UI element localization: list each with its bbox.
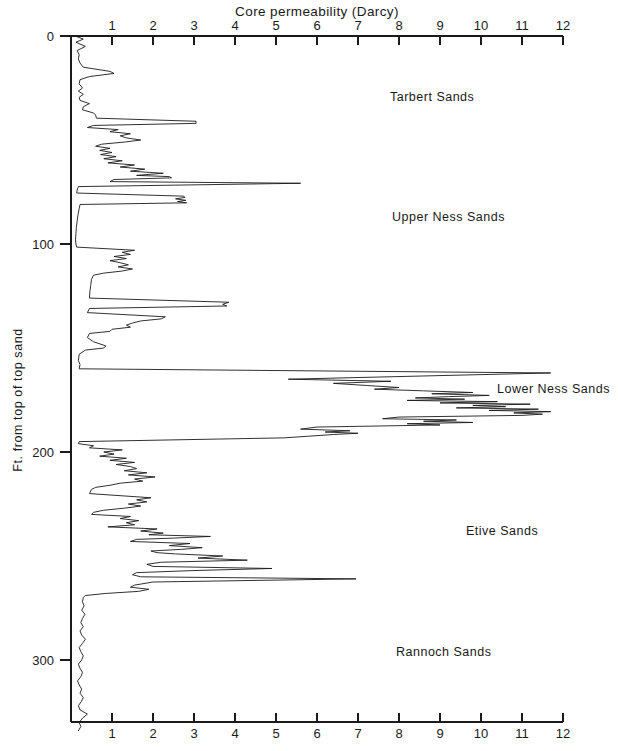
x-tick-bottom-7: 7 [354, 726, 361, 741]
x-tick-top-5: 5 [272, 18, 279, 33]
x-tick-top-12: 12 [556, 18, 570, 33]
y-axis-title: Ft. from top of top sand [11, 328, 25, 472]
formation-label-tarbert: Tarbert Sands [390, 90, 474, 104]
chart-canvas: Core permeability (Darcy) Ft. from top o… [0, 0, 618, 751]
formation-label-etive: Etive Sands [466, 524, 538, 538]
x-tick-bottom-4: 4 [231, 726, 238, 741]
y-tick-300: 300 [32, 653, 54, 668]
x-tick-top-2: 2 [149, 18, 156, 33]
permeability-log-figure: Core permeability (Darcy) Ft. from top o… [0, 0, 618, 751]
formation-label-lower-ness: Lower Ness Sands [497, 382, 610, 396]
y-tick-200: 200 [32, 445, 54, 460]
x-tick-bottom-11: 11 [515, 726, 529, 741]
x-tick-bottom-6: 6 [313, 726, 320, 741]
x-tick-top-3: 3 [190, 18, 197, 33]
x-tick-top-7: 7 [354, 18, 361, 33]
formation-label-rannoch: Rannoch Sands [396, 645, 491, 659]
x-axis-title: Core permeability (Darcy) [235, 4, 399, 19]
x-tick-bottom-8: 8 [395, 726, 402, 741]
x-tick-bottom-1: 1 [108, 726, 115, 741]
x-tick-top-4: 4 [231, 18, 238, 33]
y-tick-0: 0 [47, 29, 54, 44]
x-tick-top-10: 10 [474, 18, 488, 33]
formation-label-upper-ness: Upper Ness Sands [392, 210, 505, 224]
x-tick-top-1: 1 [108, 18, 115, 33]
x-tick-bottom-5: 5 [272, 726, 279, 741]
x-tick-top-11: 11 [515, 18, 529, 33]
top-x-axis: 123456789101112 [71, 18, 570, 45]
x-tick-bottom-3: 3 [190, 726, 197, 741]
x-tick-bottom-9: 9 [436, 726, 443, 741]
x-tick-top-6: 6 [313, 18, 320, 33]
permeability-trace [75, 36, 551, 731]
x-tick-top-9: 9 [436, 18, 443, 33]
bottom-x-axis: 123456789101112 [71, 713, 570, 741]
y-tick-100: 100 [32, 237, 54, 252]
x-tick-bottom-10: 10 [474, 726, 488, 741]
y-axis: 0100200300 [32, 29, 71, 722]
x-tick-top-8: 8 [395, 18, 402, 33]
x-tick-bottom-2: 2 [149, 726, 156, 741]
x-tick-bottom-12: 12 [556, 726, 570, 741]
